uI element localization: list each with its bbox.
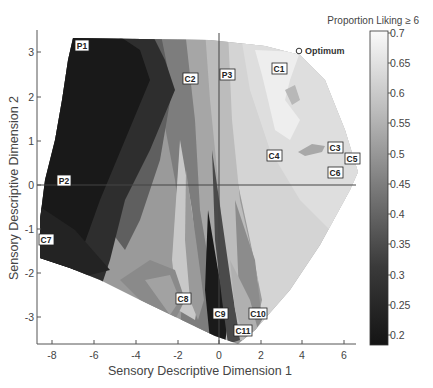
y-tick-label: 2 [28,91,34,103]
point-C8: C8 [176,293,191,304]
point-C9: C9 [213,308,228,319]
point-C4: C4 [267,150,282,161]
y-ticks: 3 2 1 0 -1 -2 -3 [25,46,41,323]
optimum-label: Optimum [305,46,345,56]
optimum-marker: Optimum [296,46,344,56]
point-label: C3 [330,143,341,153]
point-P2: P2 [57,175,71,186]
point-label: P1 [77,41,88,51]
x-tick-label: 2 [258,349,264,361]
point-C10: C10 [249,308,267,319]
colorbar-tick-label: 0.45 [390,178,411,190]
colorbar-tick-label: 0.25 [390,299,411,311]
x-tick-label: -4 [131,349,140,361]
point-C7: C7 [39,234,54,245]
point-C2: C2 [183,73,198,84]
x-axis-title: Sensory Descriptive Dimension 1 [108,364,292,378]
y-tick-label: 0 [28,179,34,191]
point-label: C2 [185,74,196,84]
x-tick-label: -2 [173,349,182,361]
x-ticks: -8 -6 -4 -2 0 2 4 6 [47,340,347,361]
y-axis-title: Sensory Descriptive Dimension 2 [7,96,21,280]
y-tick-label: -1 [25,223,34,235]
contour-chart: -8 -6 -4 -2 0 2 4 6 3 2 1 0 -1 -2 -3 Sen… [0,0,433,388]
point-C3: C3 [328,142,343,153]
point-label: C1 [274,64,285,74]
colorbar-tick-label: 0.35 [390,238,411,250]
point-label: C6 [330,168,341,178]
point-C1: C1 [272,63,287,74]
point-C5: C5 [345,153,360,164]
colorbar-tick-label: 0.2 [390,329,405,341]
point-C6: C6 [328,167,343,178]
point-C11: C11 [234,325,252,336]
x-tick-label: 0 [216,349,222,361]
point-label: C11 [235,326,250,336]
colorbar-tick-label: 0.65 [390,57,411,69]
point-label: C9 [215,309,226,319]
y-tick-label: -2 [25,267,34,279]
point-P1: P1 [75,40,89,51]
point-label: P3 [222,70,233,80]
point-label: C5 [347,154,358,164]
colorbar-tick-label: 0.55 [390,117,411,129]
y-tick-label: -3 [25,311,34,323]
point-label: C10 [250,309,266,319]
x-tick-label: -6 [89,349,98,361]
colorbar-tick-label: 0.4 [390,208,405,220]
x-tick-label: 6 [341,349,347,361]
colorbar-tick-label: 0.3 [390,269,405,281]
colorbar-tick-label: 0.6 [390,87,405,99]
point-label: C8 [178,294,189,304]
y-tick-label: 3 [28,46,34,58]
point-label: C7 [41,235,52,245]
x-tick-label: 4 [299,349,305,361]
colorbar-tick-label: 0.7 [390,27,405,39]
y-tick-label: 1 [28,135,34,147]
colorbar-title: Proportion Liking ≥ 6 [327,15,419,26]
point-label: C4 [269,151,280,161]
point-P3: P3 [220,69,235,80]
point-label: P2 [59,176,70,186]
x-tick-label: -8 [47,349,56,361]
colorbar-tick-label: 0.5 [390,148,405,160]
